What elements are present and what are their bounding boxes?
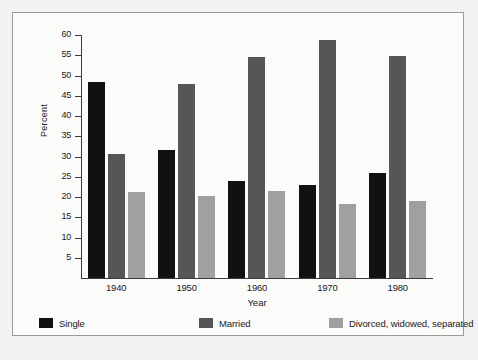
legend-swatch-icon <box>329 318 343 328</box>
x-axis-line <box>81 278 433 279</box>
y-axis-tick-label: 20 <box>61 190 71 202</box>
x-axis-tick-label: 1980 <box>363 282 433 293</box>
bar[interactable] <box>268 191 285 278</box>
y-axis-tick-label: 10 <box>61 231 71 243</box>
bar[interactable] <box>178 84 195 278</box>
y-axis-tick-label: 15 <box>61 210 71 222</box>
y-axis-tick-label: 45 <box>61 89 71 101</box>
y-axis-tick-label: 40 <box>61 109 71 121</box>
bar-group <box>363 35 433 278</box>
legend-label: Married <box>219 318 251 329</box>
y-axis-tick-label: 35 <box>61 129 71 141</box>
x-axis-title: Year <box>81 297 433 308</box>
bar[interactable] <box>198 196 215 278</box>
chart-legend: SingleMarriedDivorced, widowed, separate… <box>39 316 439 330</box>
bar[interactable] <box>248 57 265 278</box>
legend-swatch-icon <box>199 318 213 328</box>
legend-item[interactable]: Married <box>199 316 251 330</box>
bar-group <box>222 35 292 278</box>
bar[interactable] <box>339 204 356 278</box>
y-axis-tick-label: 30 <box>61 150 71 162</box>
bar[interactable] <box>228 181 245 278</box>
bar[interactable] <box>389 56 406 278</box>
bar[interactable] <box>158 150 175 278</box>
legend-swatch-icon <box>39 318 53 328</box>
x-axis-tick-label: 1950 <box>151 282 221 293</box>
bar[interactable] <box>409 201 426 278</box>
bar-group <box>292 35 362 278</box>
x-axis-tick-label: 1960 <box>222 282 292 293</box>
bar[interactable] <box>319 40 336 278</box>
y-axis-tick-label: 50 <box>61 69 71 81</box>
y-axis-title: Percent <box>39 104 49 137</box>
bar[interactable] <box>88 82 105 278</box>
y-axis-tick-label: 25 <box>61 170 71 182</box>
chart-figure-panel: Percent 51015202530354045505560 19401950… <box>12 12 464 336</box>
legend-label: Divorced, widowed, separated <box>349 318 473 329</box>
bar-group <box>151 35 221 278</box>
bar[interactable] <box>108 154 125 278</box>
x-axis-tick-label: 1940 <box>81 282 151 293</box>
legend-item[interactable]: Single <box>39 316 85 330</box>
bar[interactable] <box>128 192 145 278</box>
bar-group <box>81 35 151 278</box>
y-axis-tick-label: 55 <box>61 48 71 60</box>
legend-item[interactable]: Divorced, widowed, separated <box>329 316 473 330</box>
legend-label: Single <box>59 318 85 329</box>
bar[interactable] <box>369 173 386 278</box>
y-axis-tick-label: 60 <box>61 28 71 40</box>
plot-area: 51015202530354045505560 1940195019601970… <box>81 35 433 279</box>
y-axis-tick-label: 5 <box>66 251 71 263</box>
bar[interactable] <box>299 185 316 278</box>
x-axis-tick-label: 1970 <box>292 282 362 293</box>
